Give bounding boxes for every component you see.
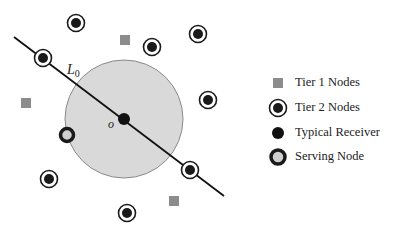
tier2-node-dot	[44, 174, 54, 184]
tier2-node-dot	[147, 42, 157, 52]
legend-item-tier2: Tier 2 Nodes	[268, 98, 288, 118]
thick-ring-icon	[268, 147, 288, 167]
tier2-node-dot	[203, 95, 213, 105]
line-label: L0	[66, 62, 80, 79]
tier2-node-dot	[38, 53, 48, 63]
serving-node	[61, 129, 74, 142]
legend-label: Serving Node	[295, 149, 364, 164]
legend-item-typical-receiver: Typical Receiver	[268, 123, 288, 143]
legend-label: Typical Receiver	[295, 125, 380, 140]
gray-square-icon	[268, 73, 288, 93]
legend-item-serving-node: Serving Node	[268, 147, 288, 167]
black-dot-icon	[268, 123, 288, 143]
typical-receiver	[118, 113, 130, 125]
tier2-node-dot	[122, 208, 132, 218]
tier1-node	[21, 98, 31, 108]
tier1-node	[120, 35, 130, 45]
network-diagram: L0o	[0, 0, 260, 232]
ringed-dot-icon	[268, 98, 288, 118]
tier1-node	[169, 196, 179, 206]
tier2-node-dot	[71, 18, 81, 28]
tier2-node-dot	[185, 165, 195, 175]
legend-label: Tier 1 Nodes	[295, 75, 360, 90]
legend-label: Tier 2 Nodes	[295, 100, 360, 115]
tier2-node-dot	[193, 29, 203, 39]
legend-item-tier1: Tier 1 Nodes	[268, 73, 288, 93]
origin-label: o	[108, 117, 114, 131]
